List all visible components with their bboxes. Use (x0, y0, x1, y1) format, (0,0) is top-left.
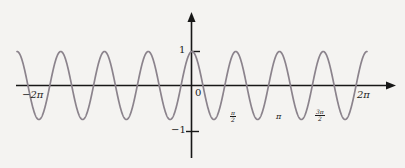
x-axis-arrow-icon (386, 82, 396, 90)
x-label-two-pi: 2π (357, 90, 370, 100)
y-axis-arrow-icon (188, 12, 196, 22)
plot-canvas (0, 0, 405, 168)
half-pi-fraction: π 2 (230, 110, 236, 124)
x-label-half-pi: π 2 (230, 110, 236, 124)
y-label-one: 1 (179, 45, 185, 55)
three-half-pi-fraction: 3π 2 (315, 109, 325, 123)
origin-label-zero: 0 (195, 88, 201, 98)
three-half-pi-denominator: 2 (315, 115, 325, 122)
x-label-pi: π (276, 113, 281, 121)
x-label-three-half-pi: 3π 2 (315, 109, 325, 123)
x-label-negative-two-pi: −2π (22, 90, 43, 100)
cosine-graph-figure: −2π 2π 0 1 −1 π 2 π 3π 2 (0, 0, 405, 168)
half-pi-denominator: 2 (230, 116, 236, 123)
y-label-negative-one: −1 (171, 125, 186, 135)
